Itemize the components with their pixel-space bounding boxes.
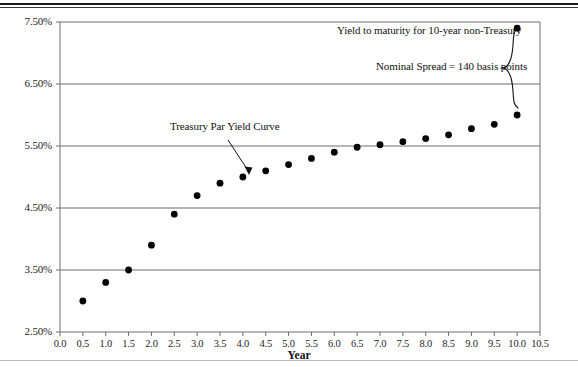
data-point	[239, 174, 246, 181]
data-point	[102, 279, 109, 286]
data-point	[399, 138, 406, 145]
data-point	[79, 298, 86, 305]
data-point	[422, 135, 429, 142]
data-point	[285, 161, 292, 168]
data-point	[331, 149, 338, 156]
y-tick-label: 6.50%	[6, 78, 52, 89]
annotation-ytm-label: Yield to maturity for 10-year non-Treasu…	[337, 24, 522, 37]
curve-label-arrow	[228, 140, 253, 175]
data-point	[194, 192, 201, 199]
data-point	[468, 125, 475, 132]
annotation-curve-label: Treasury Par Yield Curve	[170, 120, 280, 133]
data-point	[262, 167, 269, 174]
gridlines	[60, 84, 540, 270]
y-tick-label: 2.50%	[6, 326, 52, 337]
x-tick-marks	[60, 332, 540, 336]
data-point	[514, 112, 521, 119]
x-tick-label: 10.5	[525, 338, 555, 349]
figure-container: 2.50%3.50%4.50%5.50%6.50%7.50% 0.00.51.0…	[0, 0, 578, 367]
data-point	[148, 242, 155, 249]
data-point	[377, 141, 384, 148]
x-axis-title: Year	[259, 349, 339, 361]
data-point	[354, 144, 361, 151]
data-point	[217, 180, 224, 187]
data-point	[445, 131, 452, 138]
y-tick-label: 5.50%	[6, 140, 52, 151]
data-point	[125, 267, 132, 274]
yield-curve-plot	[0, 0, 578, 367]
data-point	[308, 155, 315, 162]
annotation-spread-label: Nominal Spread = 140 basis points	[376, 60, 527, 73]
y-tick-label: 7.50%	[6, 16, 52, 27]
data-point	[491, 121, 498, 128]
y-tick-label: 4.50%	[6, 202, 52, 213]
data-point	[171, 211, 178, 218]
y-tick-marks	[56, 22, 60, 332]
y-tick-label: 3.50%	[6, 264, 52, 275]
